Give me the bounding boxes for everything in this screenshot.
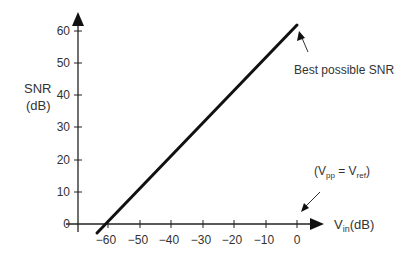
y-tick-label: 20: [57, 153, 71, 167]
snr-chart: 60 50 40 30 20 10 0 −60 −50 −40 −30 −20 …: [0, 0, 402, 256]
x-tick-label: −10: [254, 233, 275, 247]
x-axis-arrow-icon: [310, 218, 324, 230]
x-tick-label: −40: [159, 233, 180, 247]
y-tick-label: 40: [57, 88, 71, 102]
y-axis-arrow-icon: [72, 12, 84, 26]
y-tick-label: 0: [63, 217, 70, 231]
y-axis-label-line1: SNR: [24, 81, 51, 96]
best-snr-pointer: [302, 38, 308, 52]
x-tick-label: −60: [96, 233, 117, 247]
y-axis-label-line2: (dB): [26, 98, 51, 113]
vpp-pointer: [305, 192, 320, 207]
y-tick-labels: 60 50 40 30 20 10 0: [57, 24, 71, 231]
x-tick-label: −50: [128, 233, 149, 247]
y-tick-label: 60: [57, 24, 71, 38]
x-tick-label: 0: [294, 233, 301, 247]
best-snr-annotation: Best possible SNR: [294, 63, 394, 77]
x-tick-label: −20: [222, 233, 243, 247]
snr-line: [97, 25, 297, 233]
x-tick-labels: −60 −50 −40 −30 −20 −10 0: [96, 233, 301, 247]
y-tick-label: 50: [57, 56, 71, 70]
vpp-vref-annotation: (Vpp = Vref): [314, 164, 370, 180]
y-tick-label: 10: [57, 185, 71, 199]
x-axis-label: Vin(dB): [334, 217, 374, 234]
x-tick-label: −30: [191, 233, 212, 247]
y-tick-label: 30: [57, 120, 71, 134]
best-snr-arrow-icon: [297, 31, 305, 41]
